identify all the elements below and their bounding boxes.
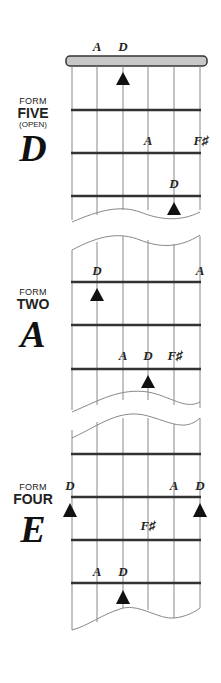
note-label: D (142, 348, 153, 363)
note-label: F♯ (192, 133, 210, 148)
strings-section-2 (72, 236, 200, 410)
break-line (72, 235, 200, 250)
form-five-label: FORM FIVE (OPEN) D (6, 96, 60, 167)
nut (66, 56, 207, 66)
note-label: A (143, 133, 153, 148)
note-label: D (168, 176, 179, 191)
note-label: A (118, 348, 128, 363)
break-line (72, 391, 200, 412)
root-triangle (193, 503, 207, 517)
note-label: F♯ (139, 518, 157, 533)
frets-section-3 (71, 454, 201, 583)
key-letter: A (6, 315, 60, 353)
root-triangle (116, 72, 130, 85)
note-label: A (195, 263, 205, 278)
note-label: A (92, 39, 102, 54)
note-label: A (169, 478, 179, 493)
note-label: D (117, 39, 128, 54)
root-triangle (141, 375, 155, 388)
root-triangle (167, 202, 181, 215)
break-line (72, 607, 200, 630)
frets-section-1 (71, 110, 201, 196)
break-line (72, 209, 200, 222)
note-label: D (194, 478, 205, 493)
break-line (72, 414, 200, 438)
root-triangle (63, 503, 77, 517)
root-triangle (116, 590, 130, 604)
key-letter: E (6, 510, 60, 548)
note-label: D (117, 564, 128, 579)
note-label: F♯ (166, 348, 184, 363)
strings-section-3 (72, 418, 200, 630)
form-two-label: FORM TWO A (6, 287, 60, 353)
note-label: D (64, 478, 75, 493)
root-triangle (90, 288, 104, 301)
key-letter: D (6, 129, 60, 167)
note-label: D (91, 263, 102, 278)
form-four-label: FORM FOUR E (6, 482, 60, 548)
note-label: A (92, 564, 102, 579)
